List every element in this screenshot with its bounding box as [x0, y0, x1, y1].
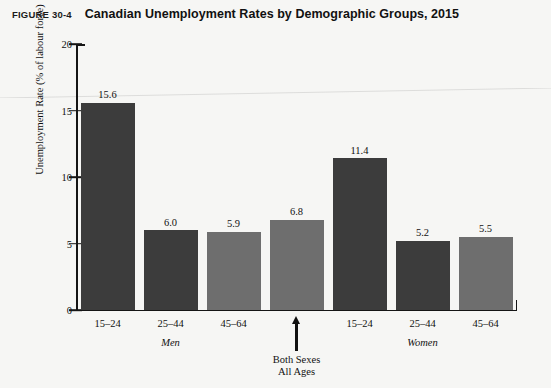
bars-layer: 15.66.05.96.811.45.25.5	[76, 44, 517, 310]
bar-value-label: 5.5	[459, 223, 513, 234]
annotation-line-1: Both Sexes	[237, 354, 357, 366]
bar: 11.4	[333, 158, 387, 310]
bar-rect	[333, 158, 387, 310]
up-arrow-icon-head	[292, 316, 300, 324]
bar-value-label: 6.0	[144, 217, 198, 228]
bar-rect	[207, 232, 261, 310]
up-arrow-icon-shaft	[295, 323, 297, 351]
bar-value-label: 6.8	[270, 206, 324, 217]
bar: 6.0	[144, 230, 198, 310]
bar-value-label: 5.9	[207, 218, 261, 229]
x-axis-category-label: 25–44	[139, 318, 202, 329]
both-sexes-annotation: Both Sexes All Ages	[237, 354, 357, 379]
x-axis-category-label: 45–64	[454, 318, 517, 329]
bar-rect	[81, 103, 135, 310]
bar-value-label: 15.6	[81, 89, 135, 100]
y-axis-label: Unemployment Rate (% of labour force)	[34, 0, 45, 215]
bar-rect	[396, 241, 450, 310]
bar-chart: Unemployment Rate (% of labour force) 05…	[0, 0, 551, 388]
bar-rect	[270, 220, 324, 310]
x-axis-category-label: 45–64	[202, 318, 265, 329]
bar: 15.6	[81, 103, 135, 310]
bar: 5.2	[396, 241, 450, 310]
bar-rect	[144, 230, 198, 310]
x-axis-category-label: 15–24	[76, 318, 139, 329]
x-axis-category-label: 25–44	[391, 318, 454, 329]
bar: 5.9	[207, 232, 261, 310]
x-axis-group-label: Men	[111, 337, 231, 348]
bar-value-label: 11.4	[333, 145, 387, 156]
bar: 6.8	[270, 220, 324, 310]
bar-rect	[459, 237, 513, 310]
x-axis-group-label: Women	[363, 337, 483, 348]
x-axis-category-label: 15–24	[328, 318, 391, 329]
y-axis-tick-labels: 05101520	[46, 0, 72, 388]
annotation-line-2: All Ages	[237, 366, 357, 378]
bar: 5.5	[459, 237, 513, 310]
bar-value-label: 5.2	[396, 227, 450, 238]
